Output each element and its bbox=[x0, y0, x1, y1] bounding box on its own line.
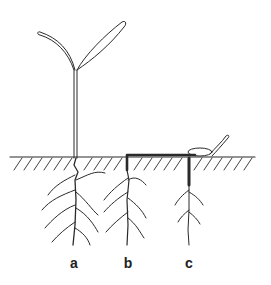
label-c: c bbox=[185, 255, 193, 271]
cotyledon-right bbox=[77, 21, 126, 70]
diagram-drawing bbox=[0, 0, 271, 285]
label-b: b bbox=[124, 255, 133, 271]
seedling-b bbox=[104, 135, 229, 245]
seedling-c bbox=[175, 158, 203, 245]
seedling-a bbox=[38, 21, 126, 245]
label-a: a bbox=[70, 255, 78, 271]
soil-hatching bbox=[14, 158, 252, 170]
seedling-diagram: a b c bbox=[0, 0, 271, 285]
cotyledon-left bbox=[38, 32, 75, 70]
seed-coat bbox=[188, 148, 212, 156]
